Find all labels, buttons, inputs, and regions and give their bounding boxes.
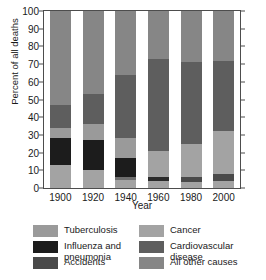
bar-segment (115, 138, 136, 157)
bar-segment (83, 124, 104, 140)
bar-segment (148, 177, 169, 181)
legend-swatch (33, 225, 58, 237)
bar-1900 (50, 11, 71, 188)
bar-segment (50, 11, 71, 105)
plot-area: Percent of all deaths 010203040506070809… (0, 0, 266, 212)
bar-segment (83, 94, 104, 124)
y-tick-mark-right (240, 134, 245, 135)
bar-segment (213, 174, 234, 181)
bar-1980 (181, 11, 202, 188)
y-tick-mark-right (240, 11, 245, 12)
bar-segment (50, 138, 71, 165)
bar-1920 (83, 11, 104, 188)
y-tick-mark (39, 11, 44, 12)
bar-segment (148, 11, 169, 59)
legend-item: Cardiovascular disease (139, 240, 239, 256)
y-tick-mark (39, 28, 44, 29)
y-tick-mark (39, 81, 44, 82)
y-tick-mark (39, 99, 44, 100)
y-tick-mark-right (240, 170, 245, 171)
bar-segment (213, 181, 234, 188)
y-tick-mark-right (240, 188, 245, 189)
bar-segment (181, 62, 202, 143)
legend-item: Cancer (139, 224, 239, 240)
bar-1940 (115, 11, 136, 188)
legend-label: All other causes (170, 256, 238, 267)
bar-segment (181, 177, 202, 181)
bar-segment (115, 177, 136, 180)
y-tick-mark (39, 117, 44, 118)
y-tick-mark-right (240, 117, 245, 118)
bar-segment (148, 151, 169, 178)
y-tick-mark (39, 170, 44, 171)
bar-segment (213, 61, 234, 132)
plot-top-border (43, 10, 241, 11)
legend-item: All other causes (139, 256, 239, 272)
legend-swatch (33, 257, 58, 269)
bar-segment (50, 165, 71, 188)
bar-segment (181, 144, 202, 178)
bar-segment (50, 105, 71, 128)
y-tick-mark (39, 152, 44, 153)
bar-segment (213, 11, 234, 61)
legend-swatch (33, 241, 58, 253)
legend-swatch (139, 257, 164, 269)
legend-item: Tuberculosis (33, 224, 133, 240)
bar-segment (115, 11, 136, 75)
bar-segment (50, 128, 71, 139)
x-axis-label: Year (44, 200, 240, 211)
y-tick-mark-right (240, 152, 245, 153)
bar-segment (148, 181, 169, 188)
bar-segment (213, 131, 234, 173)
legend-label: Tuberculosis (64, 224, 118, 235)
bar-segment (181, 11, 202, 62)
bar-segment (148, 59, 169, 151)
y-tick-mark-right (240, 81, 245, 82)
legend-item: Accidents (33, 256, 133, 272)
y-tick-mark (39, 46, 44, 47)
legend-label: Accidents (64, 256, 105, 267)
chart-legend: TuberculosisCancerInfluenza and pneumoni… (33, 224, 239, 274)
legend-item: Influenza and pneumonia (33, 240, 133, 256)
y-tick-mark-right (240, 99, 245, 100)
y-tick-mark (39, 134, 44, 135)
x-axis-line (43, 188, 241, 189)
bar-segment (115, 158, 136, 177)
bar-segment (181, 182, 202, 188)
bar-segment (115, 180, 136, 188)
bar-segment (83, 140, 104, 170)
y-tick-mark-right (240, 64, 245, 65)
bar-segment (115, 75, 136, 139)
bar-1960 (148, 11, 169, 188)
bar-segment (83, 170, 104, 188)
bar-2000 (213, 11, 234, 188)
axis-area: 0102030405060708090100190019201940196019… (44, 11, 240, 188)
y-tick-mark (39, 188, 44, 189)
bar-segment (83, 11, 104, 94)
y-tick-mark-right (240, 46, 245, 47)
legend-swatch (139, 241, 164, 253)
y-tick-mark (39, 64, 44, 65)
legend-label: Cancer (170, 224, 201, 235)
legend-swatch (139, 225, 164, 237)
y-tick-mark-right (240, 28, 245, 29)
chart-root: Percent of all deaths 010203040506070809… (0, 0, 266, 280)
